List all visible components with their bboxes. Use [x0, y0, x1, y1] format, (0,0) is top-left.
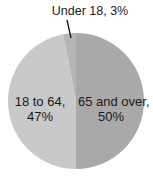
- slice-label-18-to-64: 18 to 64, 47%: [12, 94, 68, 124]
- slice-label-18-to-64-value: 47%: [12, 109, 68, 124]
- slice-label-under-18: Under 18, 3%: [40, 4, 140, 19]
- slice-label-65-and-over-name: 65 and over,: [78, 94, 144, 109]
- pie-chart: [0, 0, 153, 183]
- slice-label-65-and-over-value: 50%: [78, 109, 144, 124]
- slice-label-65-and-over: 65 and over, 50%: [78, 94, 144, 124]
- slice-label-18-to-64-name: 18 to 64,: [12, 94, 68, 109]
